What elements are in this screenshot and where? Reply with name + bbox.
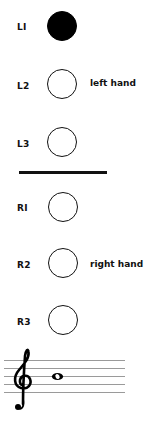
hole-label-r1: RI bbox=[17, 203, 28, 213]
whole-note-b4 bbox=[52, 373, 63, 380]
hole-r1-open bbox=[48, 192, 78, 222]
left-hand-label: left hand bbox=[90, 78, 136, 88]
hole-label-l1: LI bbox=[17, 22, 27, 32]
hole-label-r2: R2 bbox=[17, 260, 31, 270]
hand-divider bbox=[19, 171, 107, 174]
hole-label-l2: L2 bbox=[17, 81, 30, 91]
hole-l2-open bbox=[47, 69, 77, 99]
treble-clef-icon bbox=[15, 350, 30, 409]
hole-label-r3: R3 bbox=[17, 317, 31, 327]
hole-r2-open bbox=[48, 248, 78, 278]
right-hand-label: right hand bbox=[90, 259, 143, 269]
hole-r3-open bbox=[48, 305, 78, 335]
hole-label-l3: L3 bbox=[17, 139, 30, 149]
hole-l3-open bbox=[47, 127, 77, 157]
hole-l1-closed bbox=[47, 11, 77, 41]
music-staff bbox=[0, 340, 152, 422]
clef-dot bbox=[15, 404, 21, 410]
